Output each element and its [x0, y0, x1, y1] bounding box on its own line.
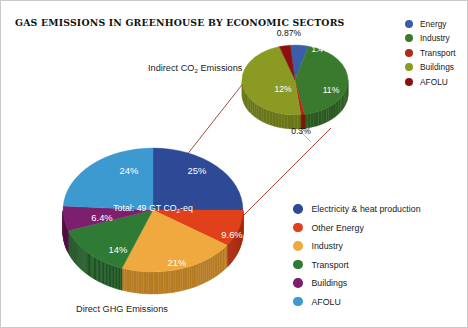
legend-item[interactable]: Buildings: [405, 62, 456, 73]
pie-slice-label: 1.4%: [311, 44, 331, 54]
legend-color-swatch-icon: [293, 241, 303, 251]
pie-slice-label: 0.3%: [291, 126, 311, 136]
legend-item[interactable]: Transport: [405, 47, 456, 58]
legend-color-swatch-icon: [293, 260, 303, 270]
legend-item-label: Electricity & heat production: [312, 204, 421, 214]
legend-item-label: Transport: [420, 48, 456, 58]
legend-item-label: Industry: [312, 241, 343, 251]
pie-slice-label: 25%: [188, 165, 207, 176]
legend-item[interactable]: Buildings: [293, 277, 421, 289]
legend-color-swatch-icon: [293, 223, 303, 233]
pie-slice-label: 21%: [168, 257, 187, 268]
indirect-pie-caption: Indirect CO2 Emissions: [148, 63, 242, 73]
legend-item-label: Buildings: [420, 62, 454, 72]
legend-item[interactable]: Industry: [405, 33, 456, 44]
pie-slice-label: 0.87%: [277, 28, 301, 38]
direct-pie-caption-text: Direct GHG Emissions: [76, 304, 168, 314]
legend-item-label: Buildings: [312, 278, 348, 288]
legend-item-label: Other Energy: [312, 223, 364, 233]
direct-ghg-pie-chart: [61, 140, 245, 305]
legend-item[interactable]: Energy: [405, 18, 456, 29]
legend-item-label: Industry: [420, 33, 450, 43]
direct-pie-caption: Direct GHG Emissions: [76, 304, 168, 314]
legend-direct-emissions: Electricity & heat productionOther Energ…: [293, 203, 421, 314]
legend-item[interactable]: Other Energy: [293, 222, 421, 234]
pie-slice-label: 12%: [274, 84, 291, 94]
legend-color-swatch-icon: [405, 34, 413, 42]
total-emissions-label: Total: 49 GT CO2-eq: [113, 203, 193, 213]
legend-color-swatch-icon: [405, 49, 413, 57]
legend-color-swatch-icon: [405, 78, 413, 86]
legend-color-swatch-icon: [405, 20, 413, 28]
pie-slice-label: 6.4%: [91, 212, 112, 223]
legend-item[interactable]: Transport: [293, 259, 421, 271]
legend-item-label: AFOLU: [420, 77, 448, 87]
indirect-pie-caption-text: Indirect CO2 Emissions: [148, 63, 242, 73]
legend-color-swatch-icon: [293, 204, 303, 214]
legend-color-swatch-icon: [405, 63, 413, 71]
pie-slice-label: 11%: [323, 85, 340, 95]
legend-item[interactable]: Industry: [293, 240, 421, 252]
pie-slice-label: 9.6%: [221, 229, 242, 240]
legend-item-label: AFOLU: [312, 297, 341, 307]
legend-item[interactable]: AFOLU: [405, 76, 456, 87]
legend-item-label: Transport: [312, 260, 349, 270]
direct-ghg-pie-svg: [61, 140, 245, 305]
legend-item-label: Energy: [420, 19, 447, 29]
legend-item[interactable]: Electricity & heat production: [293, 203, 421, 215]
legend-color-swatch-icon: [293, 278, 303, 288]
pie-slice-label: 24%: [120, 165, 139, 176]
legend-color-swatch-icon: [293, 297, 303, 307]
legend-item[interactable]: AFOLU: [293, 296, 421, 308]
pie-slice-label: 14%: [109, 244, 128, 255]
legend-indirect-emissions: EnergyIndustryTransportBuildingsAFOLU: [405, 18, 456, 91]
page-title: GAS EMISSIONS IN GREENHOUSE BY ECONOMIC …: [15, 17, 344, 28]
chart-canvas: GAS EMISSIONS IN GREENHOUSE BY ECONOMIC …: [1, 1, 467, 327]
total-emissions-text: Total: 49 GT CO2-eq: [113, 203, 193, 213]
